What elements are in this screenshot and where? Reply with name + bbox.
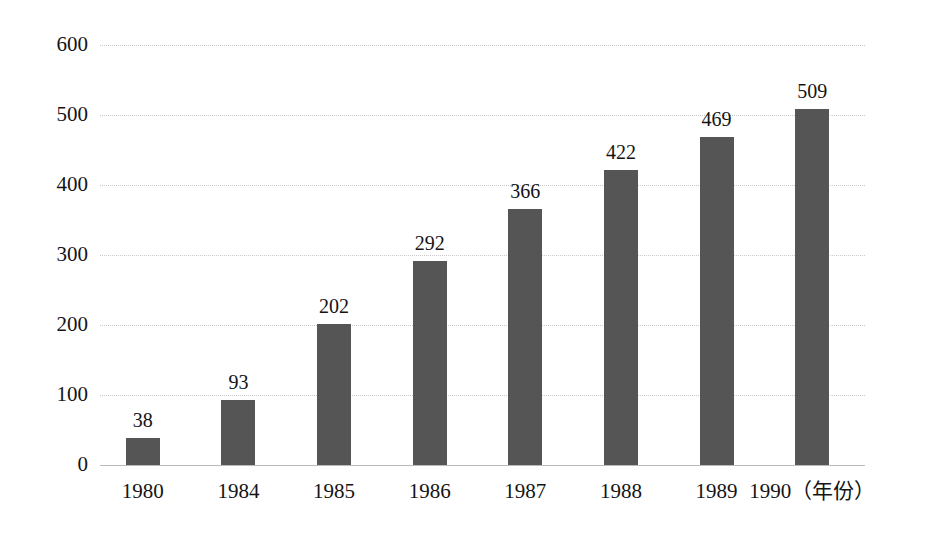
- bar-value-label: 469: [667, 109, 767, 129]
- bar-value-label: 38: [93, 410, 193, 430]
- y-axis-tick-label: 500: [57, 104, 89, 125]
- y-axis-tick-label: 0: [78, 454, 89, 475]
- bar: [700, 137, 734, 465]
- bar-value-label: 509: [762, 81, 862, 101]
- bar: [126, 438, 160, 465]
- plot-area: 3893202292366422469509: [100, 45, 865, 465]
- bar: [604, 170, 638, 465]
- bar: [413, 261, 447, 465]
- y-axis-tick-label: 100: [57, 384, 89, 405]
- y-axis-tick-label: 200: [57, 314, 89, 335]
- gridline: [100, 395, 865, 396]
- gridline: [100, 325, 865, 326]
- axis-baseline: [100, 465, 865, 466]
- y-axis-tick-label: 400: [57, 174, 89, 195]
- y-axis-tick-label: 600: [57, 34, 89, 55]
- bar-value-label: 202: [284, 296, 384, 316]
- bar: [317, 324, 351, 465]
- bar-value-label: 422: [571, 142, 671, 162]
- bar: [795, 109, 829, 465]
- bar-value-label: 93: [188, 372, 288, 392]
- x-axis: 19801984198519861987198819891990（年份）: [0, 480, 947, 520]
- bar: [508, 209, 542, 465]
- gridline: [100, 255, 865, 256]
- gridline: [100, 45, 865, 46]
- bar: [221, 400, 255, 465]
- bar-value-label: 292: [380, 233, 480, 253]
- y-axis-tick-label: 300: [57, 244, 89, 265]
- x-axis-tick-label: 1990（年份）: [732, 480, 892, 502]
- bar-chart: 6005004003002001000 38932022923664224695…: [0, 0, 947, 541]
- y-axis: 6005004003002001000: [0, 0, 88, 541]
- bar-value-label: 366: [475, 181, 575, 201]
